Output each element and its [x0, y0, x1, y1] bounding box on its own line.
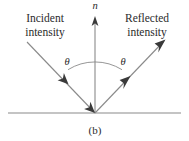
figure-caption: (b) — [70, 124, 120, 137]
reflection-diagram-figure: Incident intensity Reflected intensity n… — [0, 0, 189, 141]
incident-intensity-label: Incident intensity — [8, 12, 82, 39]
incident-ray-line — [27, 42, 95, 113]
angle-of-incidence-label: θ — [60, 56, 74, 68]
reflected-intensity-label: Reflected intensity — [110, 12, 184, 39]
angle-of-reflection-label: θ — [116, 56, 130, 68]
reflected-ray-mid-arrowhead-icon — [120, 76, 131, 89]
incident-ray-arrowhead-icon — [58, 73, 69, 84]
reflected-ray-arrowhead-icon — [155, 40, 166, 53]
normal-vector-label: n — [86, 0, 104, 12]
